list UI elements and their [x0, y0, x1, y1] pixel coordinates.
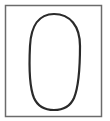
- egg-oval-shape: [29, 14, 80, 110]
- drawing-canvas: [0, 0, 110, 121]
- frame-border: [6, 6, 102, 117]
